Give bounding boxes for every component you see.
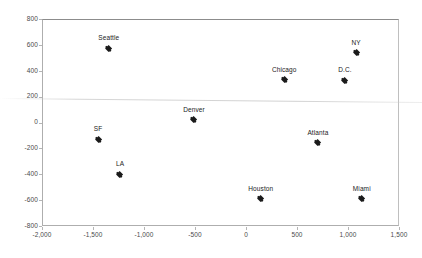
x-axis-tick-label: 0 (223, 232, 269, 239)
data-point-label: D.C. (310, 67, 380, 74)
data-point-label: Chicago (249, 67, 319, 74)
x-axis-tick-label: 500 (274, 232, 320, 239)
y-axis-tick-label: 400 (2, 68, 38, 75)
x-axis-tick-mark (144, 227, 145, 230)
x-axis-tick-mark (93, 227, 94, 230)
y-axis-tick-mark (39, 71, 42, 72)
x-axis-tick-mark (399, 227, 400, 230)
y-axis-tick-label: 800 (2, 16, 38, 23)
y-axis-tick-mark (39, 19, 42, 20)
x-axis-tick-mark (246, 227, 247, 230)
x-axis-tick-label: 1,000 (325, 232, 371, 239)
data-point-label: Seattle (74, 35, 144, 42)
x-axis-tick-label: 1,500 (376, 232, 422, 239)
data-point-label: Miami (327, 186, 397, 193)
y-axis-tick-label: -400 (2, 171, 38, 178)
y-axis-tick-mark (39, 200, 42, 201)
data-point-label: NY (321, 40, 391, 47)
plot-area (42, 19, 399, 226)
y-axis-tick-mark (39, 148, 42, 149)
y-axis-tick-mark (39, 174, 42, 175)
y-axis-tick-label: 200 (2, 93, 38, 100)
x-axis-tick-label: -1,000 (121, 232, 167, 239)
data-point-label: Houston (226, 186, 296, 193)
x-axis-tick-mark (42, 227, 43, 230)
y-axis-tick-label: 0 (2, 119, 38, 126)
x-axis-tick-mark (348, 227, 349, 230)
data-point-label: LA (85, 161, 155, 168)
y-axis-tick-mark (39, 45, 42, 46)
y-axis-tick-mark (39, 97, 42, 98)
x-axis-tick-label: -2,000 (19, 232, 65, 239)
y-axis-tick-label: 600 (2, 42, 38, 49)
data-point-label: Denver (159, 107, 229, 114)
x-axis-tick-label: -500 (172, 232, 218, 239)
x-axis-tick-mark (297, 227, 298, 230)
y-axis-tick-label: -600 (2, 197, 38, 204)
data-point-label: SF (63, 126, 133, 133)
y-axis-tick-label: -800 (2, 223, 38, 230)
scatter-chart: 8006004002000-200-400-600-800-2,000-1,50… (0, 0, 422, 258)
y-axis-tick-label: -200 (2, 145, 38, 152)
x-axis-tick-mark (195, 227, 196, 230)
data-point-label: Atlanta (283, 130, 353, 137)
x-axis-tick-label: -1,500 (70, 232, 116, 239)
y-axis-tick-mark (39, 123, 42, 124)
